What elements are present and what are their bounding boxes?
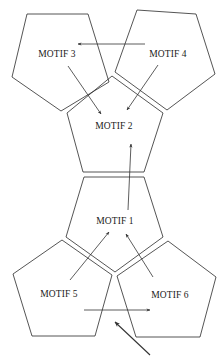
motif-2-label: MOTIF 2 (95, 121, 133, 131)
motif-3-label: MOTIF 3 (38, 49, 76, 59)
motif-4-label: MOTIF 4 (149, 49, 187, 59)
motif-5-label: MOTIF 5 (40, 289, 78, 299)
motif-diagram: MOTIF 3 MOTIF 4 MOTIF 2 MOTIF 1 MOTIF 5 … (0, 0, 224, 364)
motif-1-label: MOTIF 1 (96, 216, 134, 226)
motif-5-pentagon (13, 240, 112, 336)
motif-6-label: MOTIF 6 (151, 290, 189, 300)
arrows (68, 44, 158, 355)
motif-6-pentagon (117, 241, 216, 337)
arrow-m5-to-m1 (70, 232, 109, 280)
labels: MOTIF 3 MOTIF 4 MOTIF 2 MOTIF 1 MOTIF 5 … (38, 49, 189, 300)
motif-3-pentagon (12, 14, 109, 111)
motif-4-pentagon (115, 10, 215, 110)
arrow-m6-to-m1 (126, 234, 153, 277)
arrow-m4-to-m2 (127, 65, 158, 110)
